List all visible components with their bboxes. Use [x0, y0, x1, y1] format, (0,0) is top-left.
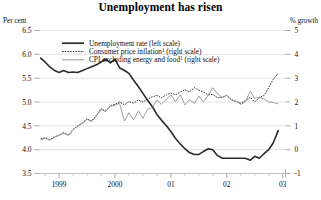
x-axis-tick-label: 1999: [52, 180, 67, 189]
right-axis-tick-label: 4: [295, 50, 299, 59]
left-axis-ticks: 6.56.05.55.04.54.03.5: [22, 26, 39, 178]
left-axis-tick-label: 6.0: [22, 50, 32, 59]
left-axis-tick-label: 5.5: [22, 74, 32, 83]
right-axis-tick-label: 5: [295, 26, 299, 35]
right-axis-ticks: 543210-1: [286, 26, 301, 178]
series-line: [41, 58, 279, 160]
left-axis-tick-label: 4.0: [22, 145, 32, 154]
x-axis-tick-label: 2000: [108, 180, 123, 189]
right-axis-tick-label: 1: [295, 122, 299, 131]
right-axis-tick-label: 2: [295, 98, 299, 107]
data-series-group: [41, 58, 279, 160]
chart-plot: 6.56.05.55.04.54.03.5 543210-1 199920000…: [0, 0, 321, 200]
legend-label-suffix: (right scale): [183, 55, 220, 64]
x-axis-tick-label: 01: [167, 180, 175, 189]
right-axis-tick-label: 0: [295, 145, 299, 154]
left-axis-tick-label: 6.5: [22, 26, 32, 35]
chart-legend: Unemployment rate (left scale)Consumer p…: [62, 39, 220, 65]
legend-label-text: CPI excluding energy and food: [89, 55, 180, 64]
x-axis-tick-label: 03: [279, 180, 287, 189]
left-axis-tick-label: 3.5: [22, 169, 32, 178]
right-axis-tick-label: 3: [295, 74, 299, 83]
legend-label: CPI excluding energy and food1 (right sc…: [89, 55, 220, 64]
left-axis-tick-label: 5.0: [22, 98, 32, 107]
series-line: [41, 88, 279, 140]
right-axis-tick-label: -1: [295, 169, 301, 178]
x-axis-ticks: 19992000010203: [45, 170, 287, 189]
left-axis-tick-label: 4.5: [22, 122, 32, 131]
x-axis-tick-label: 02: [223, 180, 231, 189]
series-line: [41, 73, 279, 139]
chart-figure: Unemployment has risen Per cent % growth…: [0, 0, 321, 200]
